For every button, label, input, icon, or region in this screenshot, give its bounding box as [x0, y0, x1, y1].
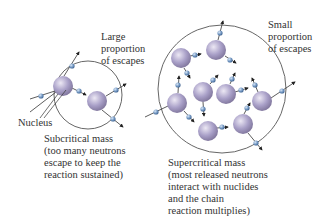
nucleus-label: Nucleus	[18, 117, 52, 129]
supercritical-nuclei	[167, 40, 272, 141]
large-proportion-escapes-label: Large proportion of escapes	[101, 31, 145, 67]
subcritical-nuclei	[53, 76, 107, 111]
fission-mass-diagram: Large proportion of escapes Small propor…	[0, 0, 330, 223]
subcritical-mass-caption: Subcritical mass (too many neutrons esca…	[44, 133, 126, 181]
small-proportion-escapes-label: Small proportion of escapes	[268, 19, 312, 55]
supercritical-mass-caption: Supercritical mass (most released neutro…	[168, 157, 268, 217]
